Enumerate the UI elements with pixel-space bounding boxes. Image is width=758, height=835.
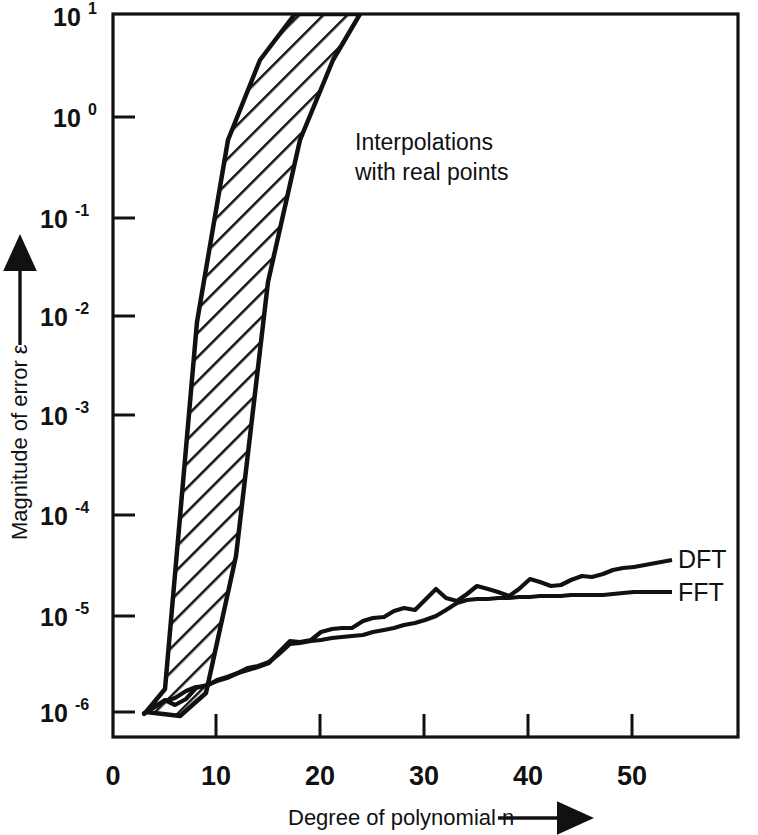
svg-text:10: 10 [53,3,81,31]
svg-text:10: 10 [53,104,81,132]
series-label-fft: FFT [678,578,724,606]
y-axis-title-group: Magnitude of error ε [7,268,32,540]
svg-text:-3: -3 [75,399,89,416]
y-axis-ticks [113,117,135,712]
svg-text:-1: -1 [75,202,89,219]
x-tick-label-10: 10 [201,761,231,791]
x-axis-ticks [216,714,632,737]
chart-svg: DFT FFT 10 1 10 0 10 -1 10 -2 10 - [0,0,758,835]
x-axis-tick-labels: 0 10 20 30 40 50 [105,761,647,791]
dft-leader-line [634,560,672,567]
band-annotation-line-1: Interpolations [355,129,493,155]
svg-text:10: 10 [40,402,68,430]
y-tick-label-1e0: 10 0 [53,101,97,132]
y-tick-label-1e-5: 10 -5 [40,600,89,631]
x-tick-label-30: 30 [409,761,439,791]
y-axis-tick-labels: 10 1 10 0 10 -1 10 -2 10 -3 10 -4 10 -5 … [40,0,97,727]
svg-text:1: 1 [88,0,97,17]
x-axis-title-group: Degree of polynomial n [288,805,560,830]
svg-text:10: 10 [40,205,68,233]
interpolation-band [146,14,360,716]
svg-text:-5: -5 [75,600,89,617]
svg-text:-4: -4 [75,499,89,516]
svg-text:-2: -2 [75,300,89,317]
y-tick-label-1e-2: 10 -2 [40,300,89,331]
y-tick-label-1e-3: 10 -3 [40,399,89,430]
y-tick-label-1e-6: 10 -6 [40,696,89,727]
svg-text:10: 10 [40,603,68,631]
band-annotation: Interpolations with real points [354,129,508,185]
y-tick-label-1e-1: 10 -1 [40,202,89,233]
svg-text:-6: -6 [75,696,89,713]
y-tick-label-1e1: 10 1 [53,0,97,31]
x-tick-label-20: 20 [305,761,335,791]
chart-figure: DFT FFT 10 1 10 0 10 -1 10 -2 10 - [0,0,758,835]
x-tick-label-40: 40 [513,761,543,791]
x-tick-label-50: 50 [617,761,647,791]
y-tick-label-1e-4: 10 -4 [40,499,89,530]
svg-text:0: 0 [88,101,97,118]
svg-text:10: 10 [40,699,68,727]
series-label-dft: DFT [678,545,727,573]
x-tick-label-0: 0 [105,761,120,791]
x-axis-title: Degree of polynomial n [288,805,514,830]
y-axis-title: Magnitude of error ε [7,344,32,540]
band-annotation-line-2: with real points [354,159,508,185]
svg-text:10: 10 [40,303,68,331]
svg-text:10: 10 [40,502,68,530]
